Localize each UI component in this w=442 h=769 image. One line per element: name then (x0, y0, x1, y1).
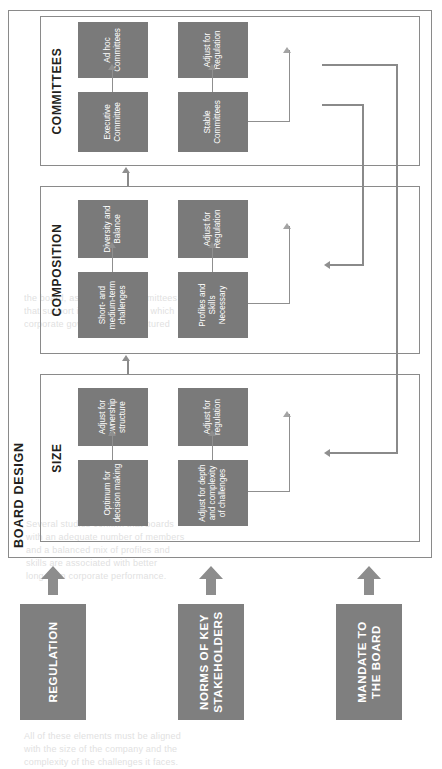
connector-size-optimum-depth (112, 436, 113, 460)
driver-box-norms: NORMS OF KEY STAKEHOLDERS (178, 604, 244, 720)
arrowhead-composition-challenges-profiles (108, 242, 116, 248)
node-label-committees-executive: Executive Committee (103, 102, 123, 142)
arrowhead-size-depth-elbow (283, 411, 291, 417)
connector-composition-elbow-h (289, 226, 290, 304)
node-size-optimum: Optimum for decision making (78, 460, 148, 526)
panel-title-committees: COMMITTEES (50, 16, 64, 166)
connector-size-depth-elbow-h (289, 414, 290, 492)
fat-right-arrow-icon-norms (198, 565, 224, 595)
arrowhead-feedback-to-composition (324, 261, 330, 269)
connector-composition-diversity-regulation (212, 248, 213, 272)
fat-right-arrow-icon-mandate (356, 565, 382, 595)
driver-label-mandate: MANDATE TO THE BOARD (355, 610, 383, 714)
arrowhead-feedback-to-size (324, 449, 330, 457)
connector-committees-elbow-v (248, 121, 290, 122)
node-size-depth: Adjust for depth and complexity of chall… (178, 460, 248, 526)
node-composition-profiles: Profiles and Skills Necessary (178, 272, 248, 338)
feedback-outer-rail-h (396, 64, 398, 454)
driver-box-mandate: MANDATE TO THE BOARD (336, 604, 402, 720)
node-label-composition-challenges: Short- and medium-term challenges (98, 281, 128, 329)
arrowhead-size-to-composition (122, 355, 130, 361)
connector-size-ownership-regulation (212, 436, 213, 460)
node-label-committees-stable: Stable Committees (203, 100, 223, 144)
connector-committees-elbow-h (289, 50, 290, 122)
arrowhead-composition-elbow (283, 223, 291, 229)
arrowhead-composition-to-committees (122, 167, 130, 173)
arrowhead-committees-executive-stable (108, 64, 116, 70)
driver-label-norms: NORMS OF KEY STAKEHOLDERS (197, 610, 225, 714)
feedback-committees-rail-h (362, 104, 364, 266)
node-label-size-optimum: Optimum for decision making (103, 464, 123, 523)
feedback-outer-rail-down (322, 64, 398, 66)
node-committees-executive: Executive Committee (78, 92, 148, 152)
arrowhead-composition-diversity-regulation (208, 242, 216, 248)
feedback-committees-rail-up (330, 264, 364, 266)
connector-composition-challenges-profiles (112, 248, 113, 272)
driver-box-regulation: REGULATION (20, 604, 86, 720)
connector-size-to-composition (127, 360, 129, 374)
feedback-committees-rail-down (322, 104, 364, 106)
panel-title-size: SIZE (50, 374, 64, 542)
connector-committees-adhoc-regulation (212, 70, 213, 92)
arrowhead-size-optimum-depth (108, 430, 116, 436)
connector-composition-to-committees (127, 172, 129, 186)
panel-title-composition: COMPOSITION (50, 186, 64, 354)
arrowhead-committees-adhoc-regulation (208, 64, 216, 70)
fat-right-arrow-icon-regulation (40, 565, 66, 595)
node-label-size-depth: Adjust for depth and complexity of chall… (198, 464, 228, 521)
node-composition-challenges: Short- and medium-term challenges (78, 272, 148, 338)
feedback-outer-rail-up (330, 452, 398, 454)
board-design-label: BOARD DESIGN (12, 442, 26, 548)
connector-composition-elbow-v (248, 303, 290, 304)
ghost-text-block-c: All of these elements must be aligned wi… (24, 730, 181, 769)
arrowhead-committees-elbow (283, 47, 291, 53)
connector-committees-executive-stable (112, 70, 113, 92)
arrowhead-size-ownership-regulation (208, 430, 216, 436)
node-label-composition-profiles: Profiles and Skills Necessary (198, 275, 228, 335)
node-committees-stable: Stable Committees (178, 92, 248, 152)
driver-label-regulation: REGULATION (46, 621, 60, 702)
connector-size-depth-elbow-v (248, 491, 290, 492)
